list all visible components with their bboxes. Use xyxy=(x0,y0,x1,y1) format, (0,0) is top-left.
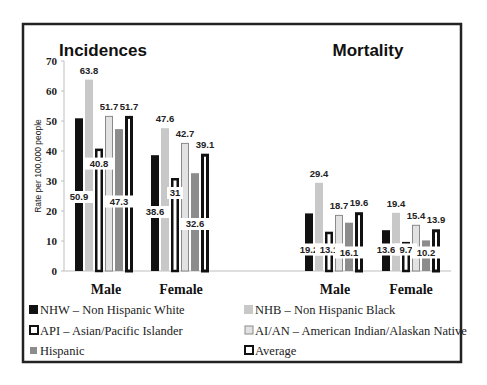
y-tick-label: 70 xyxy=(46,55,58,67)
y-tick-label: 10 xyxy=(46,235,58,247)
nhw-swatch-icon xyxy=(29,305,38,314)
value-label: 16.1 xyxy=(340,247,359,258)
nhb-swatch-icon xyxy=(244,305,253,314)
value-label: 10.2 xyxy=(417,247,436,258)
value-label: 47.3 xyxy=(110,196,129,207)
mortality-title: Mortality xyxy=(333,41,404,60)
legend-item-nhw: NHW – Non Hispanic White xyxy=(29,303,185,317)
mortality-category-female: Female xyxy=(389,282,433,297)
legend-label-nhw: NHW – Non Hispanic White xyxy=(40,303,185,317)
legend-label-nhb: NHB – Non Hispanic Black xyxy=(255,303,396,317)
value-label: 51.7 xyxy=(120,101,139,112)
bar xyxy=(127,117,132,271)
value-label: 9.7 xyxy=(399,244,412,255)
y-tick-label: 20 xyxy=(46,205,58,217)
api-swatch-icon xyxy=(30,326,38,334)
chart-figure: 010203040506070 Rate per 100,000 people … xyxy=(0,0,487,385)
y-tick-label: 50 xyxy=(46,115,58,127)
bar xyxy=(182,143,189,271)
hispanic-swatch-icon xyxy=(30,347,37,354)
value-label: 32.6 xyxy=(186,218,205,229)
y-tick-label: 0 xyxy=(52,265,58,277)
incidences-bars: 50.963.840.851.747.351.738.647.63142.732… xyxy=(65,65,215,271)
value-label: 63.8 xyxy=(80,65,99,76)
bar xyxy=(203,155,208,271)
legend-label-aian: AI/AN – American Indian/Alaskan Native xyxy=(255,324,467,338)
average-swatch-icon xyxy=(245,346,253,354)
bar xyxy=(357,214,362,271)
aian-swatch-icon xyxy=(245,326,253,334)
legend-label-average: Average xyxy=(255,344,297,358)
value-label: 29.4 xyxy=(310,168,329,179)
value-label: 19.4 xyxy=(387,198,406,209)
mortality-bars: 19.229.413.118.716.119.613.619.49.715.41… xyxy=(295,168,445,271)
value-label: 39.1 xyxy=(196,139,215,150)
value-label: 40.8 xyxy=(90,158,109,169)
value-label: 13.9 xyxy=(427,214,446,225)
value-label: 19.6 xyxy=(350,197,369,208)
value-label: 50.9 xyxy=(70,191,89,202)
value-label: 42.7 xyxy=(176,128,195,139)
legend: NHW – Non Hispanic White NHB – Non Hispa… xyxy=(29,303,467,358)
bar xyxy=(315,183,323,271)
mortality-category-male: Male xyxy=(320,282,350,297)
legend-item-api: API – Asian/Pacific Islander xyxy=(30,324,184,338)
y-ticks: 010203040506070 xyxy=(46,55,64,277)
legend-item-hispanic: Hispanic xyxy=(30,344,85,358)
value-label: 47.6 xyxy=(156,113,175,124)
value-label: 31 xyxy=(170,187,181,198)
legend-item-nhb: NHB – Non Hispanic Black xyxy=(244,303,396,317)
value-label: 38.6 xyxy=(146,206,165,217)
y-axis-label: Rate per 100,000 people xyxy=(33,119,43,213)
legend-item-average: Average xyxy=(245,344,297,358)
legend-label-hispanic: Hispanic xyxy=(40,344,85,358)
value-label: 18.7 xyxy=(330,200,349,211)
bar xyxy=(305,213,313,271)
y-tick-label: 30 xyxy=(46,175,58,187)
incidences-category-female: Female xyxy=(159,282,203,297)
y-tick-label: 40 xyxy=(46,145,58,157)
bar xyxy=(392,213,400,271)
value-label: 51.7 xyxy=(100,101,119,112)
legend-item-aian: AI/AN – American Indian/Alaskan Native xyxy=(245,324,467,338)
incidences-title: Incidences xyxy=(59,41,147,60)
bar xyxy=(85,80,93,271)
legend-label-api: API – Asian/Pacific Islander xyxy=(40,324,184,338)
value-label: 15.4 xyxy=(407,210,426,221)
y-tick-label: 60 xyxy=(46,85,58,97)
bar xyxy=(106,116,113,271)
bar xyxy=(161,128,169,271)
value-label: 13.6 xyxy=(377,244,396,255)
incidences-category-male: Male xyxy=(91,282,121,297)
